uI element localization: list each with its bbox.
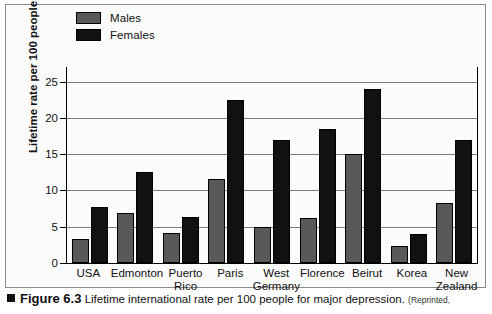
legend-item-males: Males bbox=[76, 9, 246, 26]
x-axis-label-paris: Paris bbox=[208, 267, 253, 292]
plot-area: 0510152025 bbox=[66, 67, 478, 264]
y-tick-mark-5 bbox=[60, 227, 67, 228]
x-axis-label-beirut: Beirut bbox=[345, 267, 390, 292]
x-axis-label-puerto-rico: PuertoRico bbox=[163, 267, 208, 292]
bar-group-puerto-rico bbox=[158, 67, 204, 263]
bar-females-korea bbox=[410, 234, 427, 263]
bar-group-beirut bbox=[340, 67, 386, 263]
bar-group-west-germany bbox=[249, 67, 295, 263]
caption-bullet-icon bbox=[7, 294, 15, 302]
y-tick-label-15: 15 bbox=[45, 148, 58, 160]
bar-females-florence bbox=[319, 129, 336, 263]
bar-males-florence bbox=[300, 218, 317, 263]
caption-text: Lifetime international rate per 100 peop… bbox=[85, 293, 405, 305]
chart-legend: Males Females bbox=[76, 9, 246, 43]
legend-item-females: Females bbox=[76, 26, 246, 43]
y-tick-mark-15 bbox=[60, 154, 67, 155]
y-tick-label-25: 25 bbox=[45, 76, 58, 88]
bar-group-usa bbox=[67, 67, 113, 263]
y-tick-mark-25 bbox=[60, 82, 67, 83]
bar-females-new-zealand bbox=[455, 140, 472, 263]
caption-figure-number: Figure 6.3 bbox=[20, 291, 81, 306]
y-axis-title: Lifetime rate per 100 people bbox=[27, 0, 39, 172]
legend-label-females: Females bbox=[110, 29, 155, 41]
bar-group-edmonton bbox=[113, 67, 159, 263]
bar-males-edmonton bbox=[117, 213, 134, 263]
x-axis-label-korea: Korea bbox=[389, 267, 434, 292]
legend-swatch-females bbox=[76, 29, 101, 41]
bar-males-beirut bbox=[345, 154, 362, 263]
bar-groups bbox=[67, 67, 477, 263]
bar-females-west-germany bbox=[273, 140, 290, 263]
x-axis-labels: USAEdmontonPuertoRicoParisWestGermanyFlo… bbox=[66, 267, 479, 292]
bar-females-puerto-rico bbox=[182, 217, 199, 263]
x-axis-label-usa: USA bbox=[66, 267, 111, 292]
x-axis-label-edmonton: Edmonton bbox=[111, 267, 163, 292]
y-tick-mark-0 bbox=[60, 263, 67, 264]
bar-group-paris bbox=[204, 67, 250, 263]
y-tick-label-5: 5 bbox=[52, 221, 58, 233]
y-tick-label-20: 20 bbox=[45, 112, 58, 124]
caption-credit: (Reprinted, bbox=[408, 295, 450, 305]
bar-females-edmonton bbox=[136, 172, 153, 263]
bar-males-puerto-rico bbox=[163, 233, 180, 263]
bar-group-new-zealand bbox=[432, 67, 478, 263]
bar-females-usa bbox=[91, 207, 108, 263]
x-axis-label-florence: Florence bbox=[300, 267, 345, 292]
y-tick-label-0: 0 bbox=[52, 257, 58, 269]
x-axis-label-west-germany: WestGermany bbox=[253, 267, 300, 292]
bar-group-florence bbox=[295, 67, 341, 263]
figure-frame: Males Females Lifetime rate per 100 peop… bbox=[5, 4, 486, 288]
x-axis-label-new-zealand: NewZealand bbox=[434, 267, 479, 292]
y-tick-label-10: 10 bbox=[45, 184, 58, 196]
bar-males-new-zealand bbox=[436, 203, 453, 263]
y-tick-mark-20 bbox=[60, 118, 67, 119]
bar-males-west-germany bbox=[254, 227, 271, 263]
bar-males-usa bbox=[72, 239, 89, 263]
legend-swatch-males bbox=[76, 12, 101, 24]
bar-females-paris bbox=[227, 100, 244, 263]
figure-caption: Figure 6.3 Lifetime international rate p… bbox=[7, 292, 487, 307]
bar-males-paris bbox=[208, 179, 225, 263]
bar-group-korea bbox=[386, 67, 432, 263]
legend-label-males: Males bbox=[110, 12, 141, 24]
bar-males-korea bbox=[391, 246, 408, 263]
y-tick-mark-10 bbox=[60, 190, 67, 191]
bar-females-beirut bbox=[364, 89, 381, 263]
